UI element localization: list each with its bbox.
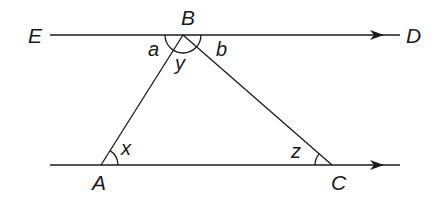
label-c: C xyxy=(331,171,347,194)
label-b: B xyxy=(181,6,195,29)
label-d: D xyxy=(406,24,421,47)
angle-label-a: a xyxy=(148,38,159,60)
angle-label-b: b xyxy=(216,38,227,60)
label-e: E xyxy=(28,24,43,47)
angle-arc-z xyxy=(315,154,319,165)
angle-label-z: z xyxy=(290,140,301,162)
geometry-diagram: E B D A C a y b x z xyxy=(0,0,443,199)
angle-label-y: y xyxy=(173,52,186,74)
angle-arc-x xyxy=(110,151,118,165)
label-a-point: A xyxy=(90,171,106,194)
angle-label-x: x xyxy=(120,137,132,159)
angle-arc-b xyxy=(165,35,201,53)
side-ab xyxy=(101,35,183,165)
side-bc xyxy=(183,35,332,165)
